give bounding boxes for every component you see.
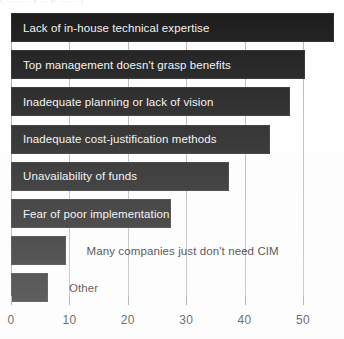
axis-tick-0: [11, 296, 12, 305]
axis-tick-30: [186, 296, 187, 305]
bar-row[interactable]: Fear of poor implementation: [12, 200, 303, 227]
axis-tick-label: 30: [179, 313, 193, 327]
bar[interactable]: [12, 274, 47, 301]
bar[interactable]: [12, 237, 65, 264]
bar-chart: ( ......... y ... p ....... ) Lack of in…: [0, 0, 344, 339]
bar-label: Many companies just don't need CIM: [87, 245, 279, 257]
bar-label: Unavailability of funds: [23, 170, 137, 182]
bar-row[interactable]: Other: [12, 274, 303, 301]
axis-tick-10: [69, 296, 70, 305]
bar-row[interactable]: Inadequate cost-justification methods: [12, 126, 303, 153]
bar-row[interactable]: Many companies just don't need CIM: [12, 237, 303, 264]
bar-row[interactable]: Top management doesn't grasp benefits: [12, 51, 303, 78]
axis-tick-40: [245, 296, 246, 305]
axis-tick-label: 10: [62, 313, 76, 327]
bar-label: Fear of poor implementation: [23, 208, 170, 220]
bar-label: Other: [69, 282, 98, 294]
axis-tick-50: [303, 296, 304, 305]
bar-label: Lack of in-house technical expertise: [23, 22, 209, 34]
bar-label: Top management doesn't grasp benefits: [23, 59, 231, 71]
bar-row[interactable]: Lack of in-house technical expertise: [12, 14, 303, 41]
bar-row[interactable]: Inadequate planning or lack of vision: [12, 88, 303, 115]
bar-label: Inadequate cost-justification methods: [23, 133, 217, 145]
clipped-caption-text: ( ......... y ... p ....... ): [0, 0, 344, 6]
axis-tick-20: [128, 296, 129, 305]
bar-label: Inadequate planning or lack of vision: [23, 96, 213, 108]
x-axis: 01020304050: [11, 305, 303, 339]
plot-area: Lack of in-house technical expertiseTop …: [11, 14, 303, 305]
axis-tick-label: 20: [121, 313, 135, 327]
axis-tick-label: 0: [8, 313, 15, 327]
axis-tick-label: 40: [238, 313, 252, 327]
bar-row[interactable]: Unavailability of funds: [12, 163, 303, 190]
axis-tick-label: 50: [296, 313, 310, 327]
